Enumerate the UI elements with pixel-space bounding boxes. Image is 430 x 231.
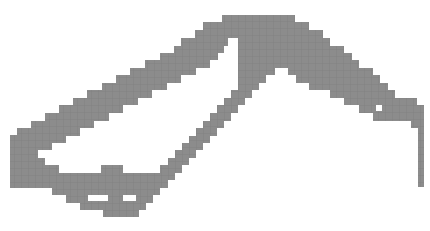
hole-right	[123, 195, 136, 201]
hole-left	[88, 195, 108, 201]
voxel-shape	[10, 15, 424, 217]
voxel-shape-figure	[0, 0, 430, 231]
hole-small	[376, 105, 382, 111]
